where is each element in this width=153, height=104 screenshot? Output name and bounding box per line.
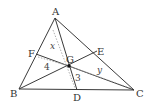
label-a: A	[51, 6, 60, 17]
label-y: y	[96, 65, 103, 75]
label-4: 4	[44, 62, 50, 72]
label-e: E	[97, 46, 104, 57]
label-d: D	[73, 92, 81, 103]
dotted-4-line	[38, 57, 69, 66]
label-f: F	[28, 48, 35, 59]
label-x: x	[50, 41, 55, 51]
label-g: G	[66, 54, 74, 65]
median-cf	[36, 54, 134, 90]
label-3: 3	[75, 73, 81, 83]
label-b: B	[10, 88, 17, 99]
label-c: C	[136, 88, 144, 99]
triangle-diagram: A B C D E F G x y 4 3	[0, 0, 153, 104]
